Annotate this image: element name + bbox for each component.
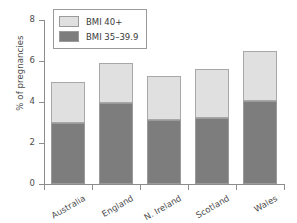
x-tick bbox=[92, 184, 93, 190]
bar-segment-bmi-35-39 bbox=[147, 120, 181, 184]
legend-label-bmi-40-plus: BMI 40+ bbox=[86, 17, 122, 27]
y-tick: 8 bbox=[39, 20, 44, 21]
bar-australia bbox=[51, 82, 85, 185]
x-tick bbox=[140, 184, 141, 190]
x-tick bbox=[284, 184, 285, 190]
bar-segment-bmi-35-39 bbox=[99, 103, 133, 184]
bar-segment-bmi-35-39 bbox=[51, 123, 85, 185]
legend-item-bmi-35-39: BMI 35–39.9 bbox=[59, 29, 138, 44]
legend-item-bmi-40-plus: BMI 40+ bbox=[59, 14, 138, 29]
y-tick-label: 4 bbox=[30, 96, 35, 106]
x-axis-label: Scotland bbox=[194, 193, 231, 220]
bar-segment-bmi-40-plus bbox=[51, 82, 85, 123]
y-axis-label: % of pregnancies bbox=[15, 13, 25, 133]
stacked-bar-chart: % of pregnancies 02468 AustraliaEnglandN… bbox=[0, 0, 297, 223]
legend-swatch-bmi-40-plus bbox=[59, 16, 79, 27]
bar-scotland bbox=[195, 69, 229, 184]
x-tick bbox=[236, 184, 237, 190]
y-axis-line bbox=[44, 20, 45, 184]
bar-segment-bmi-40-plus bbox=[243, 51, 277, 101]
bar-segment-bmi-40-plus bbox=[195, 69, 229, 118]
x-tick bbox=[44, 184, 45, 190]
y-tick: 4 bbox=[39, 102, 44, 103]
bar-england bbox=[99, 63, 133, 184]
y-tick-label: 6 bbox=[30, 55, 35, 65]
y-tick-label: 8 bbox=[30, 14, 35, 24]
y-tick: 2 bbox=[39, 143, 44, 144]
legend-label-bmi-35-39: BMI 35–39.9 bbox=[86, 32, 138, 42]
x-axis-line bbox=[44, 184, 284, 185]
bar-segment-bmi-40-plus bbox=[147, 76, 181, 120]
legend: BMI 40+ BMI 35–39.9 bbox=[53, 9, 147, 49]
x-axis-label: Australia bbox=[49, 193, 87, 220]
bar-wales bbox=[243, 51, 277, 184]
bar-segment-bmi-35-39 bbox=[195, 118, 229, 184]
x-tick bbox=[188, 184, 189, 190]
y-tick-label: 2 bbox=[30, 137, 35, 147]
x-axis-label: England bbox=[100, 193, 135, 219]
y-tick-label: 0 bbox=[30, 178, 35, 188]
legend-swatch-bmi-35-39 bbox=[59, 31, 79, 42]
x-axis-label: N. Ireland bbox=[142, 193, 183, 222]
x-axis-label: Wales bbox=[252, 193, 279, 214]
y-tick: 6 bbox=[39, 61, 44, 62]
bar-n-ireland bbox=[147, 76, 181, 184]
bar-segment-bmi-35-39 bbox=[243, 101, 277, 184]
bar-segment-bmi-40-plus bbox=[99, 63, 133, 103]
